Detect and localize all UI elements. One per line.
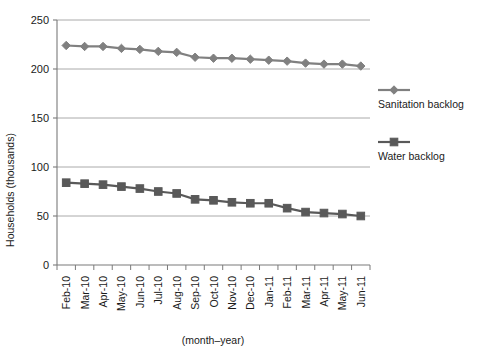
x-tick-label: Jan-11 <box>263 276 275 307</box>
x-tick-marks <box>57 265 370 270</box>
y-tick-label: 200 <box>31 63 49 75</box>
data-point-marker <box>357 212 365 220</box>
legend-item-label: Sanitation backlog <box>378 98 464 110</box>
data-point-marker <box>301 59 309 67</box>
x-tick-label: Dec-10 <box>244 276 256 310</box>
y-tick-label: 0 <box>43 259 49 271</box>
y-tick-label: 100 <box>31 161 49 173</box>
x-tick-label: Apr-10 <box>97 276 109 308</box>
data-point-marker <box>283 204 291 212</box>
data-point-marker <box>302 208 310 216</box>
data-point-marker <box>210 197 218 205</box>
y-tick-labels: 050100150200250 <box>31 14 49 271</box>
x-tick-label: Sep-10 <box>189 276 201 310</box>
data-point-marker <box>117 44 125 52</box>
data-point-marker <box>265 199 273 207</box>
data-point-marker <box>228 198 236 206</box>
data-point-marker <box>173 190 181 198</box>
data-point-marker <box>338 60 346 68</box>
x-tick-labels: Feb-10Mar-10Apr-10May-10Jun-10Jul-10Aug-… <box>60 276 367 311</box>
x-tick-label: Jul-10 <box>152 276 164 305</box>
x-tick-label: May-11 <box>336 276 348 310</box>
data-point-marker <box>118 183 126 191</box>
data-point-marker <box>246 55 254 63</box>
data-point-marker <box>172 48 180 56</box>
data-point-marker <box>228 54 236 62</box>
data-point-marker <box>191 196 199 204</box>
x-tick-label: Aug-10 <box>171 276 183 310</box>
data-point-marker <box>136 185 144 193</box>
x-tick-label: Apr-11 <box>318 276 330 307</box>
y-tick-label: 250 <box>31 14 49 26</box>
data-point-marker <box>320 60 328 68</box>
y-tick-label: 50 <box>37 210 49 222</box>
x-tick-label: Nov-10 <box>226 276 238 310</box>
y-tick-label: 150 <box>31 112 49 124</box>
x-tick-label: Feb-10 <box>60 276 72 309</box>
chart-legend: Sanitation backlogWater backlog <box>378 86 464 162</box>
data-point-marker <box>390 138 398 146</box>
x-tick-label: Jun-11 <box>355 276 367 307</box>
data-point-marker <box>339 210 347 218</box>
data-point-marker <box>99 181 107 189</box>
data-point-marker <box>191 53 199 61</box>
data-point-marker <box>154 188 162 196</box>
data-point-marker <box>390 86 398 94</box>
data-point-marker <box>283 57 291 65</box>
series-sanitation-backlog <box>62 41 365 70</box>
chart-container: 050100150200250 Feb-10Mar-10Apr-10May-10… <box>0 0 488 364</box>
x-tick-label: Oct-10 <box>208 276 220 308</box>
legend-item-label: Water backlog <box>378 150 445 162</box>
data-point-marker <box>136 45 144 53</box>
data-point-marker <box>81 180 89 188</box>
y-tick-marks <box>53 20 57 265</box>
series-water-backlog <box>62 179 364 220</box>
x-tick-label: Mar-11 <box>300 276 312 309</box>
x-tick-label: Mar-10 <box>79 276 91 309</box>
data-point-marker <box>154 47 162 55</box>
data-point-marker <box>99 42 107 50</box>
y-axis-title: Households (thousands) <box>4 133 16 247</box>
data-point-marker <box>80 42 88 50</box>
x-tick-label: Jun-10 <box>134 276 146 308</box>
data-point-marker <box>209 54 217 62</box>
data-point-marker <box>320 209 328 217</box>
data-point-marker <box>265 56 273 64</box>
chart-canvas: 050100150200250 Feb-10Mar-10Apr-10May-10… <box>0 0 488 364</box>
x-axis-title: (month–year) <box>182 334 244 346</box>
x-tick-label: May-10 <box>115 276 127 311</box>
data-point-marker <box>62 41 70 49</box>
data-point-marker <box>247 199 255 207</box>
x-tick-label: Feb-11 <box>281 276 293 309</box>
data-point-marker <box>62 179 70 187</box>
